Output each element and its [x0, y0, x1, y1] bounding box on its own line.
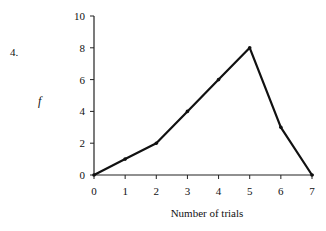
data-point: [310, 173, 314, 177]
y-tick-label: 0: [80, 169, 86, 181]
data-point: [123, 157, 127, 161]
data-point: [248, 46, 252, 50]
x-tick-label: 5: [247, 185, 253, 197]
data-point: [186, 110, 190, 114]
data-point: [217, 78, 221, 82]
line-chart: 024681001234567: [0, 0, 326, 231]
y-tick-label: 10: [74, 10, 86, 22]
data-point: [92, 173, 96, 177]
x-tick-label: 7: [309, 185, 315, 197]
x-tick-label: 2: [154, 185, 160, 197]
y-tick-label: 2: [80, 137, 86, 149]
x-tick-label: 6: [278, 185, 284, 197]
x-tick-label: 3: [185, 185, 191, 197]
data-point: [279, 126, 283, 130]
data-point: [154, 141, 158, 145]
y-tick-label: 8: [80, 42, 86, 54]
y-tick-label: 4: [80, 105, 86, 117]
x-tick-label: 1: [122, 185, 128, 197]
x-tick-label: 0: [91, 185, 97, 197]
y-tick-label: 6: [80, 74, 86, 86]
data-line: [94, 48, 312, 175]
x-tick-label: 4: [216, 185, 222, 197]
